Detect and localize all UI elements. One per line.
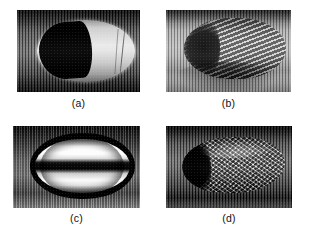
panel-d-grain bbox=[166, 126, 292, 208]
panel-c-image bbox=[13, 126, 140, 208]
panel-b-caption: (b) bbox=[166, 97, 291, 109]
panel-a-image bbox=[17, 10, 140, 92]
panel-b-grain bbox=[166, 10, 291, 92]
panel-c bbox=[13, 126, 140, 208]
panel-d bbox=[166, 126, 292, 208]
panel-d-caption: (d) bbox=[166, 212, 292, 224]
panel-d-image bbox=[166, 126, 292, 208]
figure-container: (a) (b) (c) bbox=[0, 0, 311, 225]
panel-a-grain bbox=[17, 10, 140, 92]
panel-b-image bbox=[166, 10, 291, 92]
panel-c-caption: (c) bbox=[13, 212, 140, 224]
panel-c-grain bbox=[13, 126, 140, 208]
panel-a-caption: (a) bbox=[17, 97, 140, 109]
panel-b bbox=[166, 10, 291, 92]
panel-a bbox=[17, 10, 140, 92]
